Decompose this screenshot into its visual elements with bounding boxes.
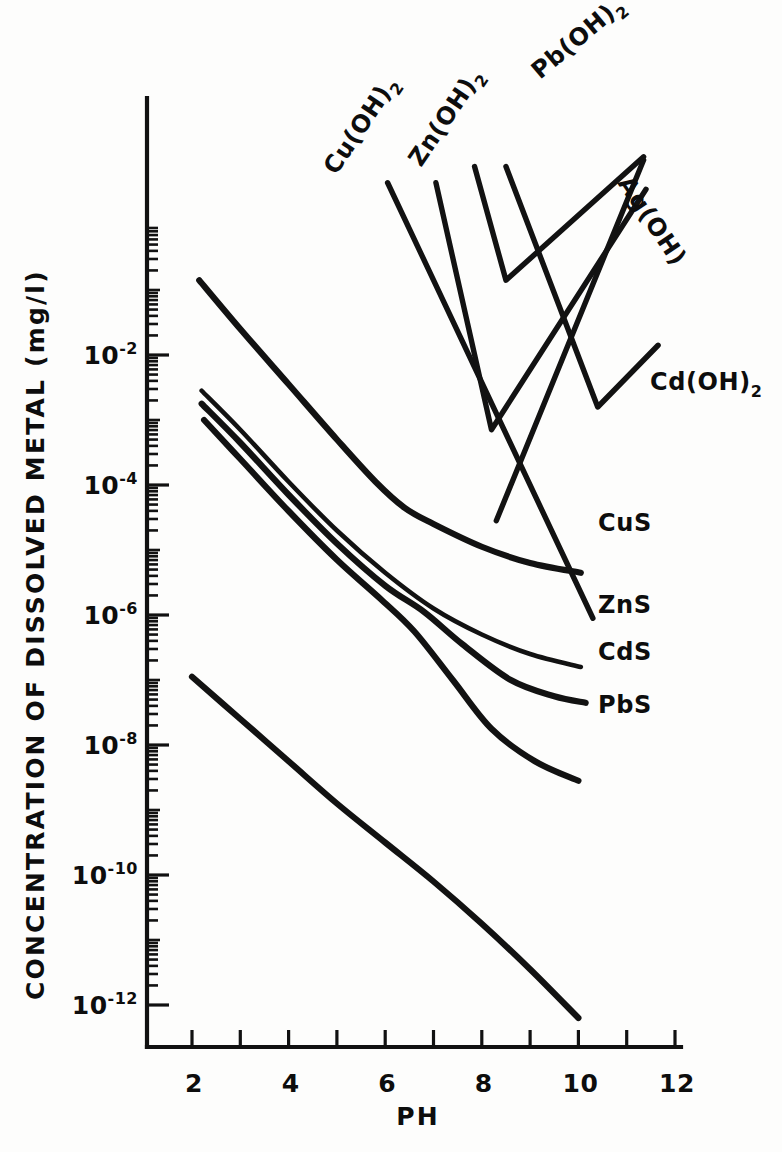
x-axis-tick-labels: 24681012 (185, 1069, 695, 1098)
y-axis-tick-labels: 10-210-410-610-810-1010-12 (72, 339, 138, 1020)
x-tick-label: 4 (282, 1069, 300, 1098)
curve-zns (202, 391, 581, 667)
chart-figure: 10-210-410-610-810-1010-12 24681012 CuSZ… (0, 0, 782, 1152)
x-tick-label: 8 (475, 1069, 493, 1098)
curve-label-znoh2: Zn(OH)2 (403, 63, 493, 175)
curve-label-cds: CdS (598, 638, 652, 666)
curve-label-cuoh2: Cu(OH)2 (318, 70, 408, 182)
curve-label-zns: ZnS (598, 591, 652, 619)
x-tick-label: 12 (659, 1069, 695, 1098)
y-axis-ticks (147, 228, 169, 1005)
y-tick-label: 10-2 (83, 339, 138, 370)
x-axis-ticks (192, 1030, 675, 1047)
curve-cus (199, 280, 581, 573)
solubility-chart-svg: 10-210-410-610-810-1010-12 24681012 CuSZ… (0, 0, 782, 1152)
x-tick-label: 2 (185, 1069, 203, 1098)
y-tick-label: 10-12 (72, 989, 138, 1020)
y-tick-label: 10-6 (83, 599, 138, 630)
y-tick-label: 10-4 (83, 469, 138, 500)
y-tick-label: 10-10 (72, 859, 138, 890)
y-tick-label: 10-8 (83, 729, 138, 760)
x-axis-title: PH (396, 1102, 440, 1131)
curve-ags (192, 677, 578, 1018)
x-tick-label: 6 (378, 1069, 396, 1098)
curve-label-pbs: PbS (598, 691, 652, 719)
y-axis-title: CONCENTRATION OF DISSOLVED METAL (mg/l) (21, 269, 50, 1000)
curve-labels: CuSZnSCdSPbSCu(OH)2Zn(OH)2Pb(OH)2Cd(OH)2… (318, 0, 763, 719)
curve-label-cdoh2: Cd(OH)2 (650, 368, 763, 401)
curve-label-cus: CuS (598, 509, 652, 537)
data-curves (192, 157, 658, 1018)
curve-agoh (496, 160, 643, 521)
x-tick-label: 10 (563, 1069, 599, 1098)
curve-label-pboh2: Pb(OH)2 (526, 0, 633, 88)
